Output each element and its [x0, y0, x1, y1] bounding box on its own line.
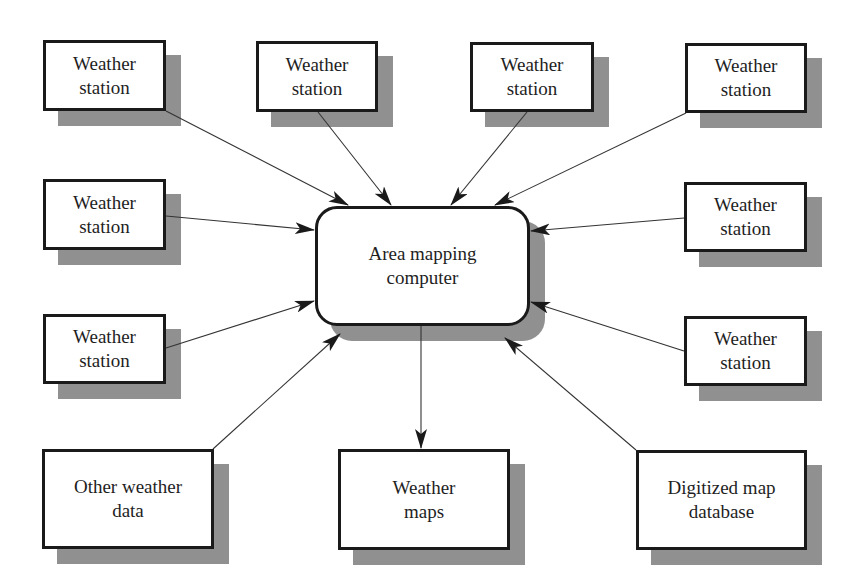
center-label-line1: Area mapping [368, 242, 476, 266]
arrow-ws-right-1 [531, 218, 684, 231]
weather-maps-box: Weathermaps [338, 449, 510, 550]
weather-station-box-top-1: Weatherstation [43, 40, 166, 111]
box-label-line2: database [667, 500, 775, 524]
box-label-line2: station [715, 78, 778, 102]
box-label-line2: station [73, 76, 136, 100]
box-label-line1: Weather [73, 191, 136, 215]
box-label-line1: Weather [714, 193, 777, 217]
box-label-line1: Weather [393, 476, 456, 500]
area-mapping-computer-box: Area mappingcomputer [315, 206, 530, 326]
box-label-line2: data [74, 499, 182, 523]
weather-station-box-top-4: Weatherstation [685, 43, 807, 113]
box-label-line2: maps [393, 500, 456, 524]
weather-station-box-left-1: Weatherstation [43, 179, 166, 250]
box-label-line1: Weather [715, 54, 778, 78]
weather-station-box-left-2: Weatherstation [43, 314, 166, 384]
box-label-line1: Other weather [74, 475, 182, 499]
box-label-line1: Weather [73, 325, 136, 349]
box-label-line1: Digitized map [667, 476, 775, 500]
box-label-line2: station [714, 217, 777, 241]
center-label-line2: computer [368, 266, 476, 290]
box-label-line2: station [73, 349, 136, 373]
arrow-other-weather-data [213, 334, 340, 449]
weather-station-box-right-2: Weatherstation [684, 316, 807, 386]
box-label-line1: Weather [286, 53, 349, 77]
box-label-line2: station [714, 351, 777, 375]
weather-station-box-top-2: Weatherstation [256, 41, 378, 112]
weather-station-box-right-1: Weatherstation [684, 182, 807, 252]
arrow-ws-left-1 [166, 216, 314, 230]
other-weather-data-box: Other weatherdata [42, 449, 214, 549]
box-label-line1: Weather [501, 53, 564, 77]
weather-station-box-top-3: Weatherstation [470, 42, 594, 112]
arrow-digitized-map-database [505, 338, 636, 450]
box-label-line2: station [501, 77, 564, 101]
weather-mapping-diagram: Weatherstation Weatherstation Weathersta… [0, 0, 848, 585]
box-label-line1: Weather [73, 52, 136, 76]
arrow-ws-left-2 [166, 301, 314, 348]
digitized-map-database-box: Digitized mapdatabase [636, 450, 807, 550]
box-label-line1: Weather [714, 327, 777, 351]
box-label-line2: station [286, 77, 349, 101]
arrow-ws-right-2 [531, 302, 684, 351]
box-label-line2: station [73, 215, 136, 239]
